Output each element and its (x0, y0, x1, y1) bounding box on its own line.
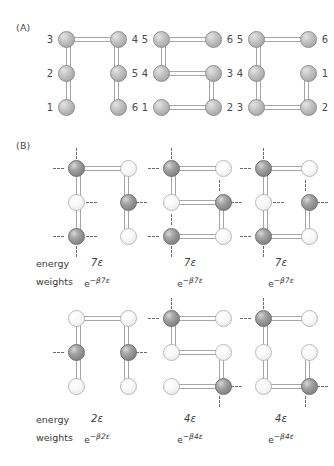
weight-exponent-b1: −β7ε (90, 276, 110, 285)
bead-number-1: 1 (44, 102, 56, 114)
bond-3-2 (258, 105, 306, 110)
contact-dash-bl-left (240, 236, 251, 237)
weight-exponent-b2: −β7ε (183, 276, 203, 285)
bead-top-left (255, 160, 272, 177)
bond-4-3 (163, 71, 211, 76)
bead-top-left (163, 310, 180, 327)
bead-mid-left (163, 344, 180, 361)
bond-5-6 (258, 37, 306, 42)
bond-tl-tr (78, 166, 126, 171)
bead-bottom-right (215, 228, 232, 245)
bead-mid-left (255, 344, 272, 361)
contact-dash-br-right (231, 386, 242, 387)
energy-value-b2: 7ε (160, 257, 220, 268)
contact-dash-bl-left (53, 236, 64, 237)
contact-dash-br-right (317, 386, 328, 387)
bead-number-5: 5 (234, 34, 246, 46)
panel-a-label: (A) (16, 22, 31, 33)
contact-dash-tl-left (148, 318, 159, 319)
bead-number-3: 3 (44, 34, 56, 46)
bead-3 (248, 99, 265, 116)
bead-1 (58, 99, 75, 116)
bead-bottom-right (120, 228, 137, 245)
contact-dash-tl-left (148, 168, 159, 169)
contact-dash-top (263, 298, 264, 309)
bead-bottom-right (301, 378, 318, 395)
bond-bl-br (173, 234, 221, 239)
bead-bottom-left (163, 228, 180, 245)
bead-2 (58, 65, 75, 82)
weight-exponent-b4: −β2ε (90, 432, 110, 441)
bead-4 (248, 65, 265, 82)
contact-dash-right-vert (219, 180, 220, 191)
bead-mid-right (120, 344, 137, 361)
bead-5 (110, 65, 127, 82)
bead-5 (248, 31, 265, 48)
bond-3-4 (68, 37, 116, 42)
bead-2 (205, 99, 222, 116)
contact-dash-mr-right (136, 352, 147, 353)
bond-tl-tr (78, 316, 126, 321)
bead-number-2: 2 (44, 68, 56, 80)
bead-6 (300, 31, 317, 48)
contact-dash-bottom (171, 246, 172, 257)
contact-dash-bottom (263, 246, 264, 257)
bead-number-4: 4 (139, 68, 151, 80)
bead-mid-right (215, 344, 232, 361)
bond-bl-br (173, 384, 221, 389)
bead-6 (110, 99, 127, 116)
bead-number-2: 2 (319, 102, 331, 114)
bead-2 (300, 99, 317, 116)
contact-dash-tl-left (240, 168, 251, 169)
bead-bottom-left (68, 228, 85, 245)
bead-top-right (215, 160, 232, 177)
energy-row-label-1: energy (36, 258, 69, 269)
bead-bottom-left (68, 378, 85, 395)
weight-exponent-b6: −β4ε (274, 432, 294, 441)
contact-dash-top (171, 148, 172, 159)
bead-6 (205, 31, 222, 48)
bead-3 (205, 65, 222, 82)
weight-value-b2: e−β7ε (155, 276, 225, 289)
contact-dash-bottom-mid (86, 236, 97, 237)
energy-value-b1: 7ε (67, 257, 127, 268)
bead-mid-left (163, 194, 180, 211)
bead-number-6: 6 (319, 34, 331, 46)
energy-value-b3: 7ε (251, 257, 311, 268)
bond-ml-mr (173, 200, 221, 205)
bead-bottom-left (255, 228, 272, 245)
bead-top-right (215, 310, 232, 327)
bead-3 (58, 31, 75, 48)
bead-top-left (68, 310, 85, 327)
bead-bottom-right (301, 228, 318, 245)
bead-5 (153, 31, 170, 48)
contact-dash-top (76, 148, 77, 159)
energy-value-b6: 4ε (251, 413, 311, 424)
bead-top-left (255, 310, 272, 327)
contact-dash-mr-right (231, 202, 242, 203)
panel-b-label: (B) (16, 140, 31, 151)
contact-dash-mid (86, 202, 97, 203)
bead-number-4: 4 (234, 68, 246, 80)
weight-value-b4: e−β2ε (62, 432, 132, 445)
weight-value-b3: e−β7ε (246, 276, 316, 289)
bead-4 (153, 65, 170, 82)
bead-bottom-right (120, 378, 137, 395)
contact-dash-tl-left (240, 318, 251, 319)
bead-mid-left (68, 194, 85, 211)
weight-value-b6: e−β4ε (246, 432, 316, 445)
bead-bottom-right (215, 378, 232, 395)
bead-mid-right (301, 194, 318, 211)
contact-dash-left-vert (171, 214, 172, 225)
contact-dash-mid (273, 202, 284, 203)
bead-bottom-left (163, 378, 180, 395)
bond-ml-mr (173, 350, 221, 355)
weight-exponent-b3: −β7ε (274, 276, 294, 285)
contact-dash-ml-left (53, 352, 64, 353)
contact-dash-tl-left (53, 168, 64, 169)
contact-dash-top (171, 298, 172, 309)
bead-top-right (120, 160, 137, 177)
bead-mid-right (215, 194, 232, 211)
weight-value-b5: e−β4ε (155, 432, 225, 445)
contact-dash-right-vert (305, 180, 306, 191)
